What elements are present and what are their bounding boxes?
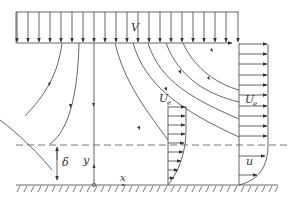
label-delta: δ bbox=[62, 156, 69, 169]
wall-hatching bbox=[17, 186, 278, 192]
label-x: x bbox=[120, 172, 126, 183]
outer-velocity-profile bbox=[239, 43, 268, 185]
free-stream-box bbox=[16, 12, 239, 43]
label-u: u bbox=[246, 155, 253, 168]
stagnation-flow-diagram: V U e U e u δ y x bbox=[0, 0, 290, 204]
label-ue-inner: U e bbox=[159, 92, 171, 107]
streamline-arrows bbox=[48, 48, 213, 130]
svg-text:e: e bbox=[167, 99, 171, 107]
label-free-stream-v: V bbox=[131, 21, 140, 34]
inner-velocity-profile bbox=[168, 106, 186, 185]
free-stream-arrows bbox=[17, 12, 238, 42]
svg-text:e: e bbox=[253, 100, 257, 108]
label-y: y bbox=[82, 154, 90, 167]
streamlines bbox=[0, 43, 239, 170]
